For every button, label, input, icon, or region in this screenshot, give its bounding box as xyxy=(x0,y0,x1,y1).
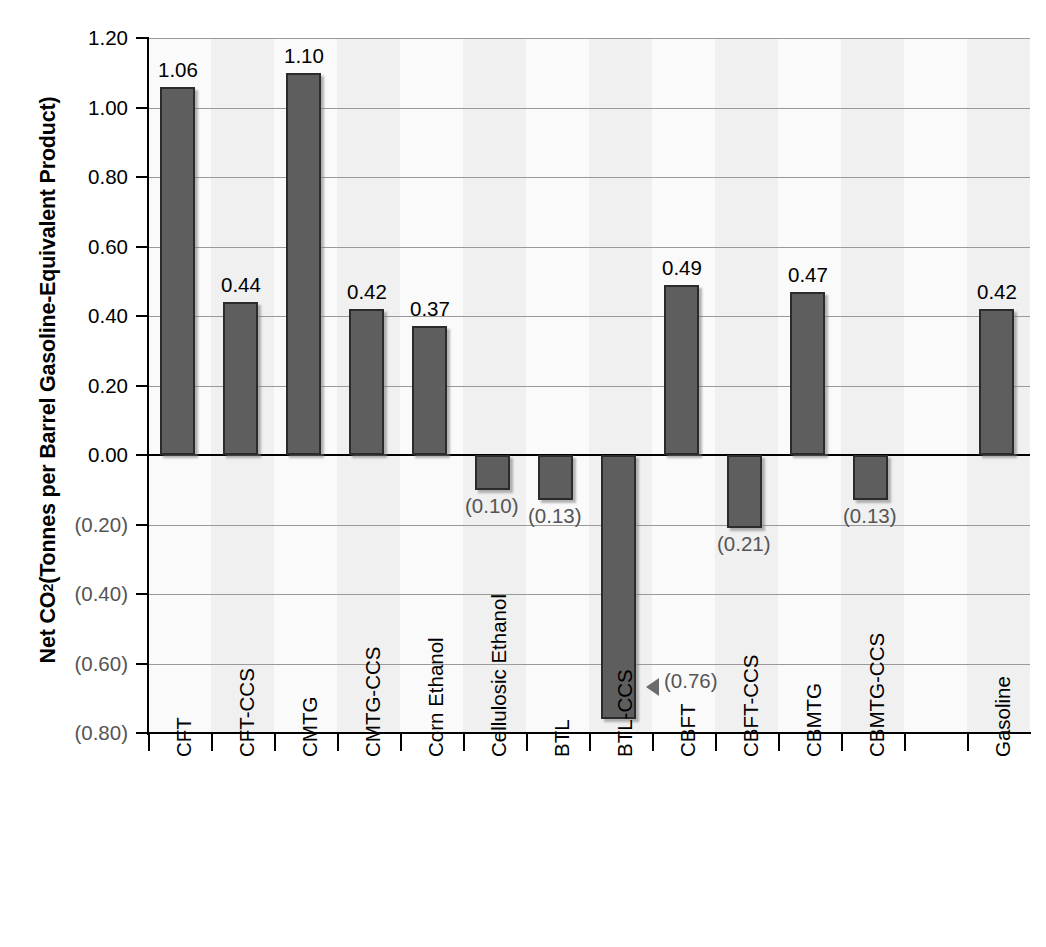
y-axis-tick-label: (0.40) xyxy=(0,584,128,605)
x-axis-tick xyxy=(589,734,591,751)
bar[interactable] xyxy=(475,455,510,490)
x-axis-tick xyxy=(715,734,717,751)
zero-line xyxy=(148,454,1030,456)
bar[interactable] xyxy=(412,326,447,455)
gridline xyxy=(148,177,1030,178)
gridline xyxy=(148,386,1030,387)
y-axis-tick-label: 1.20 xyxy=(0,28,128,49)
y-axis-ticks: 1.201.000.800.600.400.200.00(0.20)(0.40)… xyxy=(0,0,148,760)
bar-value-label: 0.44 xyxy=(221,275,261,296)
x-axis-category-label: CBFT-CCS xyxy=(741,655,762,758)
bar-value-label: 1.10 xyxy=(284,46,324,67)
x-axis-tick xyxy=(904,734,906,751)
y-axis-tick-label: 0.20 xyxy=(0,376,128,397)
y-axis-tick xyxy=(136,315,149,317)
x-axis-tick xyxy=(463,734,465,751)
bar[interactable] xyxy=(349,309,384,455)
y-axis-tick xyxy=(136,524,149,526)
x-axis-tick xyxy=(337,734,339,751)
x-axis-category-label: Corn Ethanol xyxy=(426,637,447,757)
y-axis-tick xyxy=(136,663,149,665)
y-axis-tick-label: (0.80) xyxy=(0,723,128,744)
bar[interactable] xyxy=(160,87,195,455)
x-axis-tick xyxy=(400,734,402,751)
x-axis-tick xyxy=(652,734,654,751)
figure-caption xyxy=(96,932,996,947)
gridline xyxy=(148,316,1030,317)
figure-container: Net CO2 (Tonnes per Barrel Gasoline-Equi… xyxy=(0,0,1046,947)
x-axis-tick xyxy=(778,734,780,751)
x-axis-category-label: CBMTG-CCS xyxy=(867,633,888,757)
bar-value-label: (0.13) xyxy=(528,506,582,527)
x-axis-category-label: CFT-CCS xyxy=(237,668,258,757)
y-axis-tick-label: 0.00 xyxy=(0,445,128,466)
bar[interactable] xyxy=(664,285,699,455)
x-axis-category-label: CFT xyxy=(174,717,195,757)
bar-value-label: (0.76) xyxy=(664,671,718,692)
bar[interactable] xyxy=(223,302,258,455)
gridline xyxy=(148,594,1030,595)
x-axis-tick xyxy=(967,734,969,751)
gridline xyxy=(148,525,1030,526)
bar[interactable] xyxy=(979,309,1014,455)
y-axis-tick-label: (0.20) xyxy=(0,515,128,536)
x-axis-category-label: Gasoline xyxy=(993,676,1014,757)
bar-value-label: 0.42 xyxy=(977,282,1017,303)
bar-value-label: 0.49 xyxy=(662,258,702,279)
x-axis-tick xyxy=(274,734,276,751)
y-axis-tick-label: 0.80 xyxy=(0,167,128,188)
gridline xyxy=(148,247,1030,248)
y-axis-tick xyxy=(136,176,149,178)
bar-value-label: 0.47 xyxy=(788,265,828,286)
y-axis-tick xyxy=(136,37,149,39)
y-axis-tick xyxy=(136,246,149,248)
bar[interactable] xyxy=(727,455,762,528)
y-axis-tick xyxy=(136,107,149,109)
y-axis-tick xyxy=(136,454,149,456)
x-axis-category-label: CBFT xyxy=(678,703,699,757)
y-axis-tick-label: 0.60 xyxy=(0,237,128,258)
plot-area xyxy=(148,38,1030,733)
bar[interactable] xyxy=(853,455,888,500)
x-axis-category-label: BTL xyxy=(552,719,573,757)
x-axis-category-label: CMTG xyxy=(300,697,321,757)
bar[interactable] xyxy=(790,292,825,455)
bar-value-label: (0.21) xyxy=(717,534,771,555)
y-axis-tick-label: 1.00 xyxy=(0,98,128,119)
y-axis-tick-label: (0.60) xyxy=(0,654,128,675)
x-axis-tick xyxy=(211,734,213,751)
x-axis-category-label: Cellulosic Ethanol xyxy=(489,594,510,757)
bar-value-label: 0.37 xyxy=(410,299,450,320)
y-axis-tick xyxy=(136,385,149,387)
bar[interactable] xyxy=(286,73,321,455)
bar-value-label: 1.06 xyxy=(158,60,198,81)
x-axis-category-label: CMTG-CCS xyxy=(363,647,384,757)
x-axis-category-label: BTL-CCS xyxy=(615,669,636,757)
left-pointing-triangle-icon xyxy=(646,678,659,696)
x-axis-tick xyxy=(148,734,150,751)
y-axis-tick-label: 0.40 xyxy=(0,306,128,327)
bar-value-label: (0.10) xyxy=(465,496,519,517)
x-axis-tick xyxy=(841,734,843,751)
bar-value-label: (0.13) xyxy=(843,506,897,527)
gridline xyxy=(148,664,1030,665)
bar-value-label: 0.42 xyxy=(347,282,387,303)
y-axis-tick xyxy=(136,593,149,595)
bar[interactable] xyxy=(538,455,573,500)
gridline xyxy=(148,38,1030,39)
x-axis-category-label: CBMTG xyxy=(804,683,825,757)
gridline xyxy=(148,108,1030,109)
x-axis-tick xyxy=(526,734,528,751)
